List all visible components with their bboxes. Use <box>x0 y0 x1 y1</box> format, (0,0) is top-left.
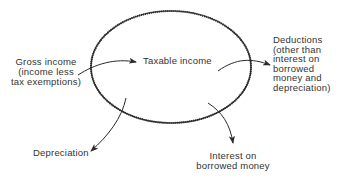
taxable-income-boundary <box>91 11 251 123</box>
gross-income-line: tax exemptions) <box>6 77 86 87</box>
depreciation-label: Depreciation <box>33 148 89 158</box>
gross-income-label: Gross income (income less tax exemptions… <box>6 57 86 87</box>
interest-line: borrowed money <box>192 161 274 171</box>
inflow-arrow-icon <box>78 61 136 75</box>
interest-label: Interest on borrowed money <box>192 151 274 171</box>
deductions-line: depreciation) <box>273 83 331 93</box>
interest-arrow-icon <box>208 103 233 143</box>
deductions-arrow-icon <box>218 60 270 71</box>
depreciation-line: Depreciation <box>33 148 89 158</box>
taxable-income-label: Taxable income <box>143 56 212 66</box>
deductions-label: Deductions (other than interest on borro… <box>273 35 331 93</box>
depreciation-arrow-icon <box>91 98 126 151</box>
